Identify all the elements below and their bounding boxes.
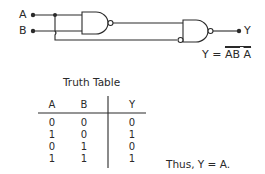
junction-dot <box>53 13 57 17</box>
cell: 1 <box>78 153 90 164</box>
cell: 1 <box>78 141 90 152</box>
nand-gate-1 <box>82 12 108 34</box>
conclusion-text: Thus, Y = A. <box>166 158 230 170</box>
cell: 0 <box>126 141 138 152</box>
header-b: B <box>78 99 90 110</box>
cell: 0 <box>126 117 138 128</box>
gate1-bubble <box>108 21 113 26</box>
input-a-dot <box>31 13 35 17</box>
output-equation: Y = AB A <box>202 49 251 60</box>
cell: 0 <box>46 117 58 128</box>
cell: 1 <box>126 129 138 140</box>
gate2-input-bubble <box>178 38 183 43</box>
input-a-label: A <box>19 9 27 20</box>
cell: 0 <box>46 141 58 152</box>
header-a: A <box>46 99 58 110</box>
cell: 1 <box>46 153 58 164</box>
nand-gate-2 <box>183 20 208 42</box>
equation-outer-bar: AB A <box>225 46 251 61</box>
cell: 0 <box>78 129 90 140</box>
cell: 0 <box>78 117 90 128</box>
wire-a-branch <box>55 15 177 40</box>
output-y-dot <box>237 29 241 33</box>
truth-table-title: Truth Table <box>63 76 120 88</box>
cell: 1 <box>126 153 138 164</box>
input-b-dot <box>31 29 35 33</box>
header-y: Y <box>126 99 138 110</box>
cell: 1 <box>46 129 58 140</box>
output-y-label: Y <box>244 25 251 36</box>
input-b-label: B <box>19 25 27 36</box>
gate2-bubble <box>208 29 213 34</box>
